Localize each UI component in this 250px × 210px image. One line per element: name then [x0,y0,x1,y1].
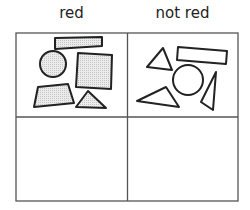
trapezoid-shape [34,84,74,107]
rectangle-shape [55,37,102,49]
triangle-shape [147,48,172,70]
red-cell-shapes [34,37,112,108]
rectangle-shape [177,47,227,64]
square-shape [76,53,112,89]
circle-shape [40,51,66,77]
sorting-grid [0,0,250,210]
not-red-cell-shapes [137,47,227,110]
triangle-shape [137,87,179,107]
triangle-shape [76,91,106,108]
circle-shape [173,65,203,95]
